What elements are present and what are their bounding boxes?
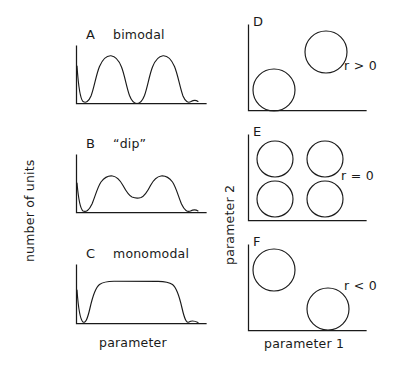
right-column-x-axis-label: parameter 1: [264, 336, 344, 351]
panel-d-cluster-lower-left: [253, 69, 295, 111]
panel-e-cluster-upper-right: [307, 141, 343, 177]
figure-panel-grid: number of units A bimodal B “dip” C mono…: [0, 0, 397, 369]
panel-c-title: monomodal: [113, 246, 189, 261]
panel-e-cluster-upper-left: [257, 141, 293, 177]
panel-a-letter: A: [86, 27, 95, 42]
panel-b-title: “dip”: [113, 136, 146, 151]
left-column-x-axis-label: parameter: [99, 335, 167, 350]
panel-e-plot: [242, 132, 370, 224]
panel-b-letter: B: [86, 136, 95, 151]
right-column-y-axis-label: parameter 2: [222, 185, 237, 265]
panel-a-plot: [70, 44, 208, 110]
panel-e-cluster-lower-right: [307, 181, 343, 217]
panel-d-cluster-upper-right: [305, 31, 347, 73]
panel-a-title: bimodal: [113, 27, 165, 42]
panel-c-plot: [70, 263, 208, 331]
panel-f-cluster-lower-right: [307, 288, 349, 330]
panel-f-cluster-upper-left: [253, 249, 295, 291]
panel-e-cluster-lower-left: [257, 181, 293, 217]
panel-d-plot: [242, 22, 370, 114]
left-column-y-axis-label: number of units: [22, 159, 37, 262]
panel-f-plot: [242, 242, 370, 334]
panel-c-letter: C: [86, 246, 95, 261]
panel-b-plot: [70, 153, 208, 219]
